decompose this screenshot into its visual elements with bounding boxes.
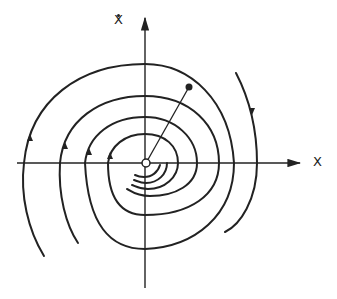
origin-marker bbox=[142, 159, 150, 167]
phase-portrait bbox=[0, 0, 337, 299]
state-point bbox=[186, 84, 193, 91]
trajectory-outer bbox=[23, 64, 234, 256]
x-axis-label: X bbox=[313, 154, 322, 169]
arrow-icon bbox=[27, 134, 33, 141]
trajectory-outer-right bbox=[225, 73, 257, 232]
trajectory-third bbox=[85, 117, 197, 196]
trajectory-inner-1 bbox=[134, 163, 167, 183]
derivative-dot bbox=[117, 14, 120, 17]
arrow-icon bbox=[107, 152, 113, 159]
